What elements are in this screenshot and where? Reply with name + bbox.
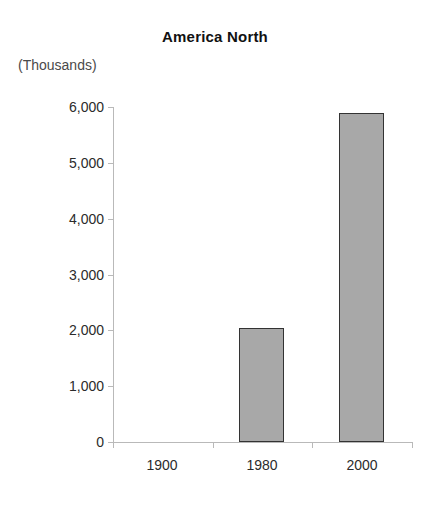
y-axis-tick-label: 3,000 — [69, 267, 104, 283]
y-axis-tick-label: 1,000 — [69, 378, 104, 394]
x-axis-tick — [312, 442, 313, 448]
y-axis-tick-label: 0 — [96, 434, 104, 450]
y-axis-tick — [108, 386, 114, 387]
bar-2000[interactable] — [339, 113, 384, 442]
x-axis-tick — [213, 442, 214, 448]
chart-title: America North — [0, 28, 430, 45]
x-axis-category-label: 2000 — [346, 457, 377, 473]
y-axis-unit-label: (Thousands) — [18, 57, 97, 73]
y-axis-tick-label: 6,000 — [69, 99, 104, 115]
chart-page: America North (Thousands) 01,0002,0003,0… — [0, 0, 430, 512]
y-axis-tick — [108, 275, 114, 276]
y-axis-tick — [108, 163, 114, 164]
y-axis-tick — [108, 330, 114, 331]
x-axis-category-label: 1900 — [146, 457, 177, 473]
y-axis-tick — [108, 107, 114, 108]
plot-area: 01,0002,0003,0004,0005,0006,000 19001980… — [113, 107, 412, 442]
x-axis-tick — [113, 442, 114, 448]
x-axis-category-label: 1980 — [246, 457, 277, 473]
bar-1980[interactable] — [239, 328, 284, 442]
y-axis-tick — [108, 219, 114, 220]
y-axis-tick-label: 4,000 — [69, 211, 104, 227]
x-axis-tick — [412, 442, 413, 448]
y-axis-tick-label: 2,000 — [69, 322, 104, 338]
y-axis-tick-label: 5,000 — [69, 155, 104, 171]
x-axis-line — [113, 442, 412, 443]
